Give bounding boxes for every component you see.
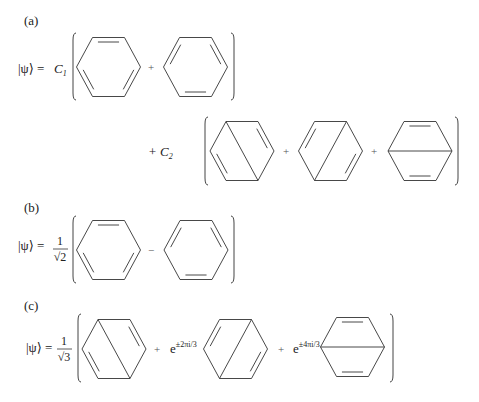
operator-sign: + bbox=[283, 145, 289, 157]
diagram-canvas: (a)|ψ⟩ =C1++ C2++(b)|ψ⟩ =1√2−(c)|ψ⟩ =1√3… bbox=[0, 0, 479, 402]
double-bond-line bbox=[210, 45, 221, 64]
ring-outline bbox=[77, 221, 141, 280]
double-bond-line bbox=[83, 70, 94, 89]
bracket-left bbox=[73, 216, 76, 283]
phase-coefficient: e±4πi/3 bbox=[293, 340, 320, 356]
panel-label: (a) bbox=[24, 13, 38, 28]
coefficient: C1 bbox=[54, 61, 67, 78]
double-bond-line bbox=[171, 228, 182, 247]
double-bond-line bbox=[210, 327, 221, 346]
benzene-structure-dewar-1 bbox=[82, 320, 146, 379]
benzene-structure-dewar-3 bbox=[388, 122, 452, 181]
operator-sign: + bbox=[371, 145, 377, 157]
fraction-numerator: 1 bbox=[57, 234, 63, 248]
ring-outline bbox=[164, 221, 228, 280]
psi-ket-lhs: |ψ⟩ = bbox=[18, 238, 44, 253]
fraction-numerator: 1 bbox=[61, 334, 67, 348]
dewar-para-bond bbox=[226, 122, 258, 181]
coefficient-subscript: 1 bbox=[63, 69, 67, 78]
double-bond-line bbox=[123, 70, 134, 89]
double-bond-line bbox=[83, 253, 94, 272]
dewar-para-bond bbox=[315, 122, 347, 181]
double-bond-line bbox=[250, 352, 261, 371]
benzene-structure-dewar-1 bbox=[210, 122, 274, 181]
dewar-para-bond bbox=[98, 320, 130, 379]
benzene-structure-dewar-2 bbox=[204, 320, 268, 379]
double-bond-line bbox=[89, 352, 100, 371]
double-bond-line bbox=[211, 228, 222, 247]
operator-sign: + bbox=[154, 343, 160, 355]
bracket-left bbox=[73, 33, 76, 100]
bracket-right bbox=[231, 33, 234, 100]
phase-exponent: ±4πi/3 bbox=[299, 340, 320, 349]
psi-ket-lhs: |ψ⟩ = bbox=[26, 340, 52, 355]
operator-sign: + bbox=[278, 343, 284, 355]
bracket-left bbox=[205, 117, 208, 185]
fraction-denominator: √2 bbox=[54, 250, 67, 264]
double-bond-line bbox=[170, 45, 181, 64]
phase-coefficient: e±2πi/3 bbox=[170, 340, 197, 356]
coefficient: + C2 bbox=[148, 144, 173, 161]
panel-label: (b) bbox=[24, 200, 39, 215]
double-bond-line bbox=[345, 154, 356, 173]
benzene-structure-kekule-1 bbox=[77, 221, 141, 280]
fraction-denominator: √3 bbox=[58, 350, 71, 364]
coefficient-subscript: 2 bbox=[169, 152, 173, 161]
benzene-structure-kekule-2 bbox=[164, 221, 228, 280]
ring-outline bbox=[164, 38, 228, 97]
psi-ket-lhs: |ψ⟩ = bbox=[18, 61, 44, 76]
double-bond-line bbox=[123, 253, 134, 272]
bracket-left bbox=[78, 314, 81, 382]
double-bond-line bbox=[129, 327, 140, 346]
double-bond-line bbox=[217, 154, 228, 173]
ring-outline bbox=[77, 38, 141, 97]
panel-label: (c) bbox=[24, 298, 38, 313]
benzene-structure-dewar-3 bbox=[321, 318, 385, 377]
panel-c: (c)|ψ⟩ =1√3+e±2πi/3+e±4πi/3 bbox=[24, 298, 320, 364]
bracket-right bbox=[455, 117, 458, 185]
phase-exponent: ±2πi/3 bbox=[176, 340, 197, 349]
operator-sign: − bbox=[148, 244, 154, 256]
double-bond-line bbox=[305, 129, 316, 148]
bracket-right bbox=[390, 314, 393, 382]
operator-sign: + bbox=[148, 61, 154, 73]
diagram-layer: (a)|ψ⟩ =C1++ C2++(b)|ψ⟩ =1√2−(c)|ψ⟩ =1√3… bbox=[18, 13, 458, 382]
bracket-right bbox=[231, 216, 234, 283]
benzene-structure-dewar-2 bbox=[299, 122, 363, 181]
benzene-structure-kekule-2 bbox=[164, 38, 228, 97]
double-bond-line bbox=[257, 129, 268, 148]
benzene-structure-kekule-1 bbox=[77, 38, 141, 97]
dewar-para-bond bbox=[220, 320, 252, 379]
panel-a: (a)|ψ⟩ =C1++ C2++ bbox=[18, 13, 377, 161]
